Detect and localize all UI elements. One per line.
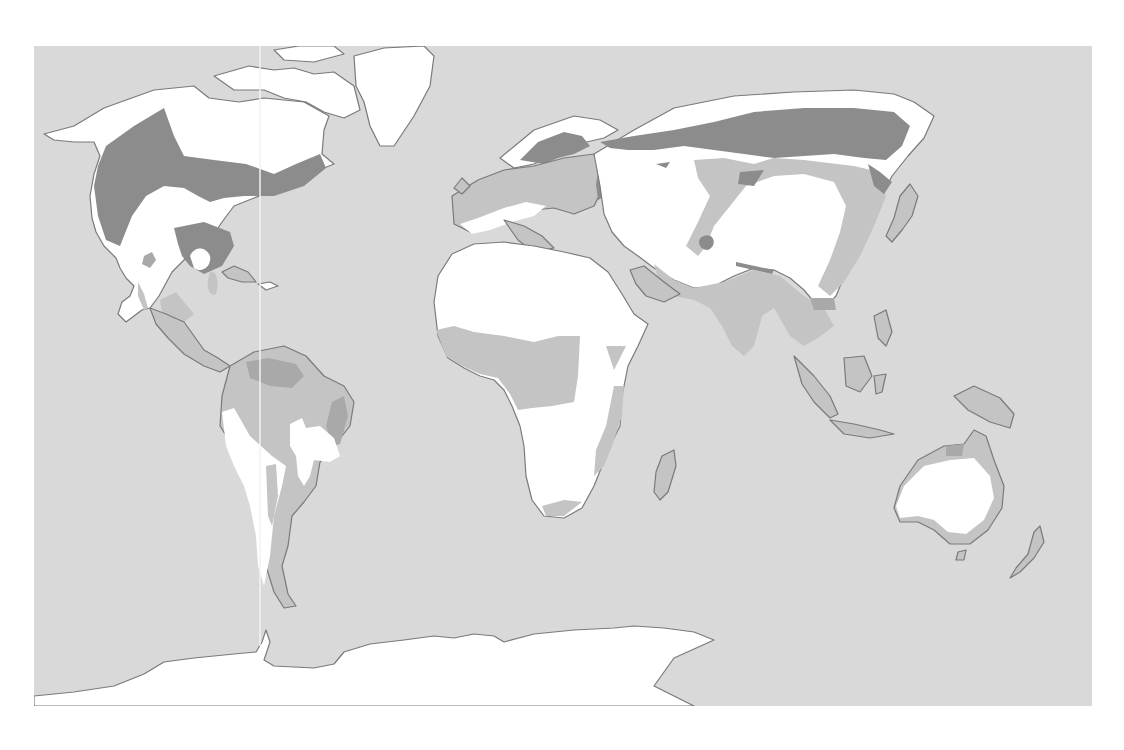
world-map [34,46,1092,706]
